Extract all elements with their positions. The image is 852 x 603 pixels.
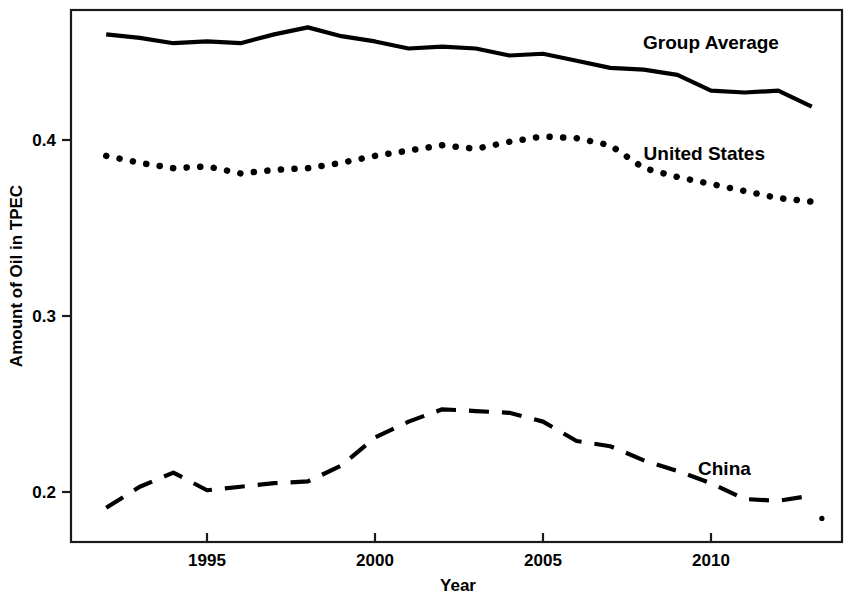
x-tick-label: 2010	[692, 551, 730, 570]
series-label-united-states: United States	[644, 143, 765, 164]
series-label-group-average: Group Average	[643, 32, 779, 53]
y-tick-label: 0.4	[32, 131, 56, 150]
x-tick-label: 1995	[188, 551, 226, 570]
chart-svg: 0.20.30.4 1995200020052010 Group Average…	[0, 0, 852, 603]
y-axis-title: Amount of Oil in TPEC	[7, 185, 26, 367]
x-tick-label: 2000	[356, 551, 394, 570]
series-endpoint-china	[819, 516, 824, 521]
y-axis-ticks: 0.20.30.4	[32, 131, 71, 502]
x-tick-label: 2005	[524, 551, 562, 570]
series-label-china: China	[698, 458, 751, 479]
chart-figure: 0.20.30.4 1995200020052010 Group Average…	[0, 0, 852, 603]
y-tick-label: 0.3	[32, 307, 56, 326]
y-tick-label: 0.2	[32, 483, 56, 502]
x-axis-title: Year	[440, 576, 476, 595]
